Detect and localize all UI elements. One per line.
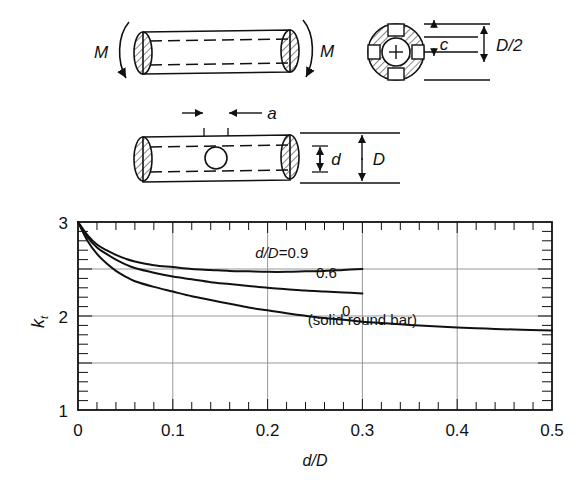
cross-section-schematic: c D/2 [368, 20, 523, 80]
solid-round-bar-note: (solid round bar) [308, 311, 417, 328]
section-block-bottom [388, 68, 404, 80]
hole-shaft-right-end-section [281, 135, 299, 179]
y-tick-label: 1 [59, 402, 68, 421]
section-block-top [388, 24, 404, 36]
annotation-var: d/D [255, 244, 279, 261]
y-axis-tick-labels: 321 [59, 214, 68, 421]
section-block-right [412, 45, 424, 59]
moment-label-left: M [94, 43, 109, 62]
annotation-value: =0.9 [279, 244, 309, 261]
dim-label-D: D [373, 150, 385, 169]
section-block-left [368, 45, 380, 59]
y-axis-title-subscript: t [38, 315, 50, 319]
x-tick-label: 0.5 [540, 421, 564, 440]
dim-label-c: c [440, 35, 449, 54]
y-tick-label: 3 [59, 214, 68, 233]
kt-vs-d-over-D-chart: 00.10.20.30.40.5 321 d/D=0.90.60(solid r… [28, 214, 564, 469]
stress-concentration-figure: M M c [0, 0, 585, 486]
y-axis-title: kt [28, 315, 50, 328]
x-tick-label: 0.1 [161, 421, 185, 440]
moment-arrow-left [120, 22, 129, 78]
shaft-left-end-section [134, 32, 152, 74]
shaft-right-end-section [281, 30, 299, 72]
x-tick-label: 0.2 [256, 421, 280, 440]
x-tick-label: 0.3 [351, 421, 375, 440]
moment-label-right: M [320, 42, 335, 61]
curve-label-06: 0.6 [316, 264, 337, 281]
shaft-body [143, 30, 290, 74]
curve-label-09: d/D=0.9 [255, 244, 308, 261]
hole-shaft-schematic: a d D [134, 104, 400, 183]
moment-arrow-right [303, 20, 312, 77]
top-shaft-schematic: M M [94, 20, 335, 78]
x-tick-label: 0.4 [445, 421, 469, 440]
dim-label-D-half: D/2 [496, 36, 523, 55]
x-axis-tick-labels: 00.10.20.30.40.5 [73, 421, 564, 440]
y-tick-label: 2 [59, 308, 68, 327]
x-tick-label: 0 [73, 421, 82, 440]
dim-label-a: a [267, 104, 276, 123]
dim-label-d: d [331, 150, 341, 169]
transverse-hole [205, 147, 227, 169]
x-axis-title: d/D [303, 452, 328, 469]
hole-shaft-left-end-section [134, 137, 152, 181]
figure-canvas: M M c [0, 0, 585, 486]
